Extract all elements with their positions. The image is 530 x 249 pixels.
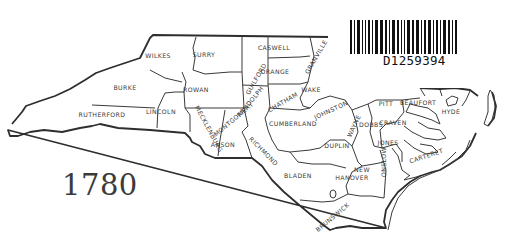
nc-county-map-1780: WILKESSURRYCASWELLGRANVILLEGUILFORDORANG… (0, 0, 530, 249)
barcode-bar (372, 20, 373, 54)
barcode-bar (443, 20, 446, 54)
barcode-bar (389, 20, 390, 54)
barcode-bar (436, 20, 438, 54)
barcode-bar (455, 20, 457, 54)
barcode-bar (380, 20, 383, 54)
barcode-bar (428, 20, 431, 54)
barcode-bar (424, 20, 426, 54)
county-label-richmond: RICHMOND (248, 135, 280, 167)
county-label-new: NEW (354, 166, 370, 173)
barcode-bar (440, 20, 441, 54)
county-label-wake: WAKE (301, 86, 321, 93)
barcode-bar (350, 20, 352, 54)
county-label-cumberland: CUMBERLAND (269, 120, 317, 127)
county-label-bladen: BLADEN (284, 172, 312, 179)
barcode-bar (392, 20, 395, 54)
county-label-jones: JONES (376, 139, 398, 147)
barcode-bar (421, 20, 422, 54)
barcode-bar (385, 20, 387, 54)
barcode-bar (433, 20, 434, 54)
county-label-beaufort: BEAUFORT (400, 99, 436, 106)
county-label-wilkes: WILKES (145, 52, 171, 59)
barcode-bar (357, 20, 360, 54)
county-label-craven: CRAVEN (379, 119, 406, 126)
barcode-bar (354, 20, 355, 54)
county-label-hyde: HYDE (442, 108, 461, 115)
county-label-burke: BURKE (113, 84, 136, 91)
county-label-pitt: PITT (379, 100, 394, 107)
county-label-lincoln: LINCOLN (146, 108, 176, 115)
map-year-title: 1780 (62, 168, 138, 202)
barcode-bar (407, 20, 410, 54)
county-label-johnston: JOHNSTON (312, 99, 349, 122)
county-label-montgomery: MONTGOMERY (212, 101, 254, 138)
county-label-surry: SURRY (193, 51, 215, 58)
barcode-sticker: D1259394 (328, 0, 530, 88)
barcode-bar (412, 20, 414, 54)
barcode-bar (365, 20, 366, 54)
county-label-orange: ORANGE (261, 68, 290, 75)
county-label-caswell: CASWELL (258, 44, 290, 51)
county-label-rutherford: RUTHERFORD (79, 111, 126, 118)
barcode-bar (362, 20, 363, 54)
barcode-bar (452, 20, 453, 54)
county-label-hanover: HANOVER (335, 174, 369, 181)
barcode-bar (375, 20, 378, 54)
barcode-bar (448, 20, 450, 54)
county-label-onslow: ONSLOW (380, 147, 387, 177)
barcode-bar (404, 20, 405, 54)
barcode-bar (368, 20, 370, 54)
county-label-rowan: ROWAN (183, 86, 209, 93)
barcode-icon (350, 20, 459, 54)
county-label-anson: ANSON (211, 141, 235, 148)
barcode-bar (416, 20, 419, 54)
lake-waccamaw (330, 190, 336, 198)
barcode-bar (397, 20, 399, 54)
county-label-duplin: DUPLIN (324, 142, 349, 149)
barcode-number: D1259394 (383, 53, 446, 68)
county-label-carteret: CARTERET (408, 147, 444, 165)
barcode-bar (401, 20, 402, 54)
